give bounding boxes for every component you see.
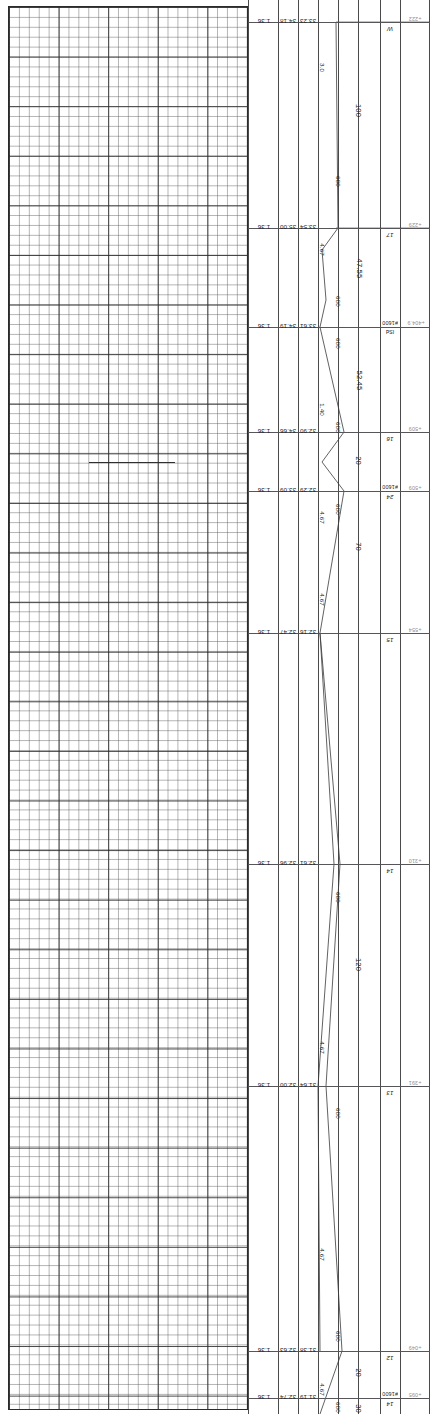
cell-station: +554 [400,627,430,633]
cell-structure: 16 [380,436,400,443]
cell-station: +310 [400,858,430,864]
cell-ground-elev: 32.90 [298,428,318,435]
segment-slope: 1.40 [319,398,326,422]
cell-depth: 1.36 [250,1394,278,1401]
cell-invert-elev: 32.47 [278,629,298,636]
cell-pipe-marker: #1600 [378,1391,402,1397]
table-column-slope [318,0,338,1414]
cell-ground-elev: 33.54 [298,224,318,231]
cell-ground-elev: 33.23 [298,18,318,25]
cell-depth: 1.36 [250,629,278,636]
cell-invert-elev: 32.63 [278,1347,298,1354]
cell-invert-elev: 33.09 [278,487,298,494]
segment-pipe: 600 [335,886,342,910]
segment-pipe: 600 [335,1325,342,1349]
cell-station: +404.9 [400,320,430,326]
cell-invert-elev: 32.74 [278,1394,298,1401]
cell-station: +222 [400,16,430,22]
cell-station: +391 [400,1080,430,1086]
cell-station: +229 [400,222,430,228]
cell-ground-elev: 32.29 [298,487,318,494]
segment-slope: 4.67 [319,238,326,262]
cell-structure: W [380,26,400,33]
cell-ground-elev: 31.19 [298,1394,318,1401]
profile-grid-area [8,6,248,1410]
cell-pipe-marker-sub: ISd [378,329,402,335]
segment-length: 30 [354,1397,363,1414]
segment-pipe: 600 [335,1396,342,1414]
cell-invert-elev: 32.96 [278,860,298,867]
segment-slope: 4.67 [319,1378,326,1402]
table-column-invert-elev [278,0,298,1414]
cell-structure: 14 [380,868,400,875]
cell-pipe-marker: #1600 [378,320,402,326]
cell-depth: 1.36 [250,18,278,25]
cell-ground-elev: 33.61 [298,323,318,330]
cell-depth: 1.36 [250,860,278,867]
table-column-structure [380,0,400,1414]
segment-pipe: 600 [335,170,342,194]
segment-length: 70 [354,535,363,559]
segment-slope: 3.0 [319,56,326,80]
segment-pipe: 600 [335,416,342,440]
profile-data-table: 1.36 34.18 33.23 W +222 1.36 35.00 33.54… [248,0,430,1414]
cell-ground-elev: 31.64 [298,1082,318,1089]
cell-depth: 1.36 [250,323,278,330]
cell-invert-elev: 34.18 [278,18,298,25]
segment-pipe: 600 [335,1102,342,1126]
cell-depth: 1.36 [250,1082,278,1089]
segment-length: 100 [354,99,363,123]
table-column-ground-elev [298,0,318,1414]
cell-invert-elev: 32.00 [278,1082,298,1089]
cell-invert-elev: 34.19 [278,323,298,330]
cell-structure: 13 [380,1090,400,1097]
cell-invert-elev: 34.66 [278,428,298,435]
cell-depth: 1.36 [250,224,278,231]
table-column-pipe [338,0,358,1414]
cell-depth: 1.36 [250,487,278,494]
cell-depth: 1.36 [250,428,278,435]
segment-length: 20 [354,1361,363,1385]
cell-ground-elev: 32.16 [298,629,318,636]
drawing-sheet: 1.36 34.18 33.23 W +222 1.36 35.00 33.54… [0,0,430,1414]
cell-structure: 15 [380,637,400,644]
cell-pipe-marker: #1600 [378,484,402,490]
segment-slope: 4.67 [319,1036,326,1060]
cell-invert-elev: 35.00 [278,224,298,231]
segment-pipe: 600 [335,498,342,522]
cell-station: +049 [400,1345,430,1351]
cell-ground-elev: 32.61 [298,860,318,867]
table-column-station [400,0,430,1414]
cell-station: +095 [400,1392,430,1398]
segment-slope: 4.67 [319,1243,326,1267]
segment-length: 47.55 [355,254,364,284]
table-column-depth [248,0,278,1414]
segment-length: 52.45 [355,366,364,396]
cell-structure: 17 [380,232,400,239]
cell-station: +509 [400,485,430,491]
cell-depth: 1.36 [250,1347,278,1354]
segment-pipe: 600 [335,290,342,314]
cell-station: +509 [400,426,430,432]
table-column-length [358,0,380,1414]
cell-ground-elev: 31.38 [298,1347,318,1354]
segment-slope: 4.67 [319,588,326,612]
cell-structure: 24 [380,494,400,501]
grid-annotation-line [89,462,175,463]
segment-pipe: 600 [335,332,342,356]
cell-structure: 12 [380,1355,400,1362]
segment-length: 20 [354,449,363,473]
segment-slope: 4.67 [319,506,326,530]
segment-length: 120 [354,953,363,977]
cell-structure: 14 [380,1401,400,1408]
